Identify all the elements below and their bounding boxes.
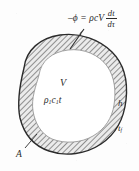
energy-balance-equation: –ϕ = ρcV dt dτ [68,9,117,28]
equation-lead: –ϕ = ρcV [68,14,104,24]
fluid-temperature-subscript: f [121,127,123,133]
area-label: A [16,150,22,160]
derivative-fraction: dt dτ [106,9,117,28]
heat-transfer-coefficient-label: h [118,99,123,108]
fraction-denominator: dτ [106,19,116,28]
thermal-capacity-label: ρ1c1t [44,96,61,106]
volume-label: V [60,78,66,88]
fraction-numerator: dt [107,9,116,18]
heat-transfer-figure: –ϕ = ρcV dt dτ V ρ1c1t h tf A [0,0,139,171]
fluid-temperature-label: tf [118,124,122,134]
temperature-symbol: t [59,95,62,105]
